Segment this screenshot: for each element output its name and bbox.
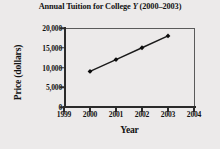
chart-screenshot: Annual Tuition for College Y (2000–2003)… xyxy=(0,0,220,149)
data-point-2000 xyxy=(88,69,93,74)
data-point-2001 xyxy=(114,57,119,62)
series-layer xyxy=(0,0,220,149)
series-line-tuition xyxy=(90,36,168,72)
data-point-2003 xyxy=(166,34,171,39)
data-point-2002 xyxy=(140,45,145,50)
